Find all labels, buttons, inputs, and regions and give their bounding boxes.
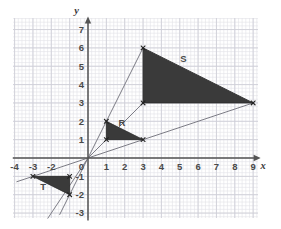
y-axis-arrow: [85, 17, 91, 24]
y-tick-label: 4: [79, 79, 85, 90]
x-tick-label: 2: [122, 161, 127, 172]
coordinate-diagram: -4-3-2123456789-3-2-112345670 xy RST: [0, 0, 281, 229]
y-tick-label: -3: [76, 207, 84, 218]
y-tick-label: 3: [79, 97, 84, 108]
x-tick-label: -4: [10, 161, 19, 172]
x-tick-label: -2: [47, 161, 55, 172]
y-tick-label: 1: [79, 134, 85, 145]
x-tick-label: 5: [177, 161, 183, 172]
shape-label-r: R: [119, 117, 126, 128]
y-tick-label: 5: [79, 61, 85, 72]
origin-label: 0: [79, 161, 84, 172]
x-axis-name: x: [260, 160, 266, 171]
x-tick-label: 4: [159, 161, 165, 172]
y-axis-name: y: [72, 5, 79, 16]
x-tick-label: 7: [214, 161, 219, 172]
x-tick-label: 3: [140, 161, 145, 172]
x-tick-label: 8: [232, 161, 237, 172]
axis-lines: [13, 17, 261, 221]
x-tick-label: 9: [251, 161, 256, 172]
y-tick-label: -2: [76, 189, 84, 200]
y-tick-label: 6: [79, 42, 84, 53]
plot-svg: -4-3-2123456789-3-2-112345670 xy RST: [0, 0, 281, 229]
shape-label-t: T: [40, 181, 46, 192]
y-tick-label: 2: [79, 116, 84, 127]
y-tick-label: -1: [76, 171, 85, 182]
y-tick-label: 7: [79, 24, 84, 35]
x-tick-label: 1: [104, 161, 110, 172]
x-tick-label: -3: [29, 161, 37, 172]
x-tick-label: 6: [195, 161, 200, 172]
shape-label-s: S: [180, 53, 186, 64]
